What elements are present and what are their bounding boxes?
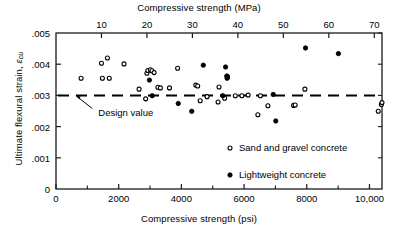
x-tick-label-top: 60 [324,19,335,30]
y-tick-label: 0 [10,184,50,195]
x-tick-label-bottom: 6000 [233,193,254,204]
legend-item-label: Sand and gravel concrete [239,142,347,153]
x-tick-label-top: 10 [96,19,107,30]
x-tick-label-top: 50 [278,19,289,30]
x-tick-label-top: 70 [369,19,380,30]
plot-canvas [0,0,398,230]
y-tick-label: .004 [10,59,50,70]
legend-item-label: Lightweight concrete [239,169,326,180]
x-tick-label-bottom: 8000 [296,193,317,204]
y-tick-label: .003 [10,90,50,101]
legend-markers [228,146,232,177]
y-tick-label: .001 [10,152,50,163]
x-tick-label-bottom: 4000 [171,193,192,204]
y-tick-label: .005 [10,28,50,39]
x-tick-label-bottom: 2000 [108,193,129,204]
design-value-annotation: Design value [98,107,153,118]
y-tick-label: .002 [10,121,50,132]
x-tick-label-top: 20 [142,19,153,30]
x-tick-label-bottom: 0 [53,193,58,204]
x-tick-label-bottom: 10,000 [355,193,384,204]
x-tick-label-top: 30 [187,19,198,30]
scatter-chart-figure: Compressive strength (MPa) Compressive s… [0,0,398,230]
annotation-leader-arrow [75,95,92,108]
x-tick-label-top: 40 [233,19,244,30]
series-lightweight-points [147,46,340,123]
